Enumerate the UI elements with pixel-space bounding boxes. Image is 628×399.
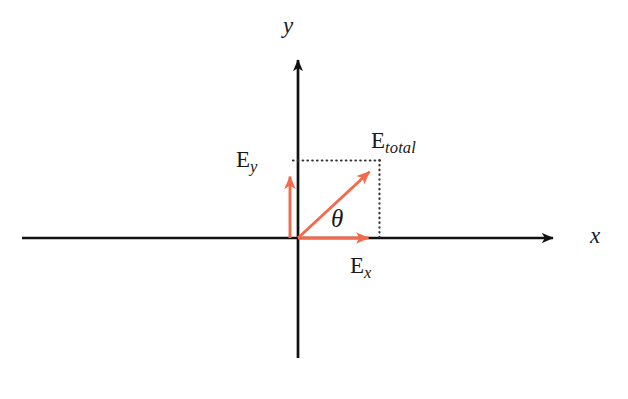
x-axis-label: x (590, 224, 600, 247)
e-x-label-subscript: x (364, 263, 371, 282)
vectors-group (290, 172, 370, 238)
e-y-label: Ey (236, 148, 258, 176)
e-total-label: Etotal (371, 129, 416, 157)
e-y-label-main: E (236, 147, 250, 172)
e-x-label-main: E (350, 253, 364, 278)
diagram-canvas: y x Ey Ex Etotal θ (0, 0, 628, 399)
axes-group (22, 60, 553, 358)
e-total-label-main: E (371, 128, 385, 153)
e-y-label-subscript: y (250, 157, 257, 176)
theta-angle-label: θ (331, 206, 343, 231)
e-total-label-subscript: total (385, 138, 416, 157)
e-x-label: Ex (350, 254, 372, 282)
vector-diagram-svg (0, 0, 628, 399)
y-axis-label: y (283, 14, 293, 37)
